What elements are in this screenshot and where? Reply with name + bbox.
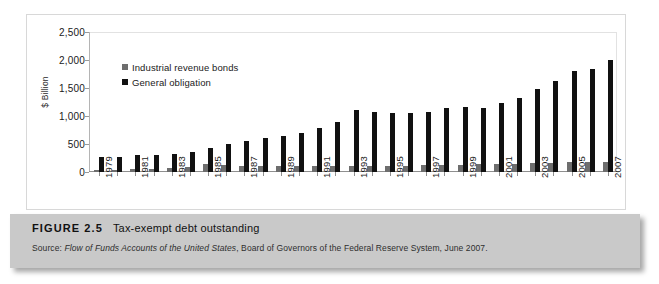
bar-general-obligation (117, 157, 122, 172)
x-axis-tick-label: 1987 (248, 156, 259, 178)
bar-group (167, 32, 177, 172)
x-axis-tick-mark (572, 172, 573, 176)
bar-general-obligation (335, 122, 340, 172)
y-axis-tick-label: 500 (41, 139, 85, 150)
x-axis-tick-mark (335, 172, 336, 176)
x-axis-tick-mark (190, 172, 191, 176)
x-axis-tick-mark (135, 172, 136, 176)
figure-caption: FIGURE 2.5Tax-exempt debt outstanding (32, 222, 260, 234)
bar-group (421, 32, 431, 172)
bar-group (403, 32, 413, 172)
bar-group (330, 32, 340, 172)
chart-panel: $ Billion 05001,0001,5002,0002,500 Indus… (26, 14, 626, 210)
bar-general-obligation (444, 108, 449, 172)
x-axis-tick-label: 1991 (321, 156, 332, 178)
source-rest: , Board of Governors of the Federal Rese… (236, 243, 487, 253)
x-axis-tick-mark (372, 172, 373, 176)
x-axis-tick-label: 1989 (285, 156, 296, 178)
x-axis-tick-mark (154, 172, 155, 176)
bar-general-obligation (372, 112, 377, 172)
bar-general-obligation (299, 133, 304, 172)
bar-general-obligation (517, 98, 522, 172)
bar-group (603, 32, 613, 172)
x-axis-tick-mark (244, 172, 245, 176)
bar-group (458, 32, 468, 172)
y-axis-tick-label: 2,000 (41, 55, 85, 66)
x-axis-tick-labels: 1979198119831985198719891991199319951997… (90, 178, 617, 218)
bar-general-obligation (408, 113, 413, 172)
x-axis-tick-mark (281, 172, 282, 176)
y-axis-tick-label: 1,000 (41, 111, 85, 122)
source-prefix: Source: (32, 243, 64, 253)
x-axis-tick-mark (481, 172, 482, 176)
bar-group (567, 32, 577, 172)
bar-series-container (90, 32, 617, 172)
y-axis-tick-mark (85, 172, 89, 173)
x-axis-tick-label: 1983 (176, 156, 187, 178)
bar-general-obligation (553, 81, 558, 172)
bar-group (130, 32, 140, 172)
bar-general-obligation (481, 108, 486, 172)
figure-container: $ Billion 05001,0001,5002,0002,500 Indus… (0, 0, 659, 284)
x-axis-tick-mark (317, 172, 318, 176)
bar-group (203, 32, 213, 172)
bar-group (112, 32, 122, 172)
bar-general-obligation (263, 138, 268, 172)
source-title: Flow of Funds Accounts of the United Sta… (64, 243, 236, 253)
bar-general-obligation (590, 69, 595, 172)
bar-group (585, 32, 595, 172)
bar-group (530, 32, 540, 172)
bar-group (512, 32, 522, 172)
bar-general-obligation (154, 155, 159, 172)
bar-group (367, 32, 377, 172)
bar-group (149, 32, 159, 172)
x-axis-tick-mark (517, 172, 518, 176)
x-axis-tick-mark (99, 172, 100, 176)
y-axis-tick-label: 1,500 (41, 83, 85, 94)
bar-group (385, 32, 395, 172)
y-axis-tick-label: 0 (41, 167, 85, 178)
x-axis-tick-mark (590, 172, 591, 176)
bar-general-obligation (190, 152, 195, 172)
x-axis-tick-mark (426, 172, 427, 176)
figure-caption-band: FIGURE 2.5Tax-exempt debt outstanding So… (10, 214, 640, 268)
x-axis-tick-label: 1981 (139, 156, 150, 178)
x-axis-tick-mark (117, 172, 118, 176)
figure-number: FIGURE 2.5 (32, 222, 103, 234)
x-axis-tick-mark (553, 172, 554, 176)
x-axis-tick-mark (208, 172, 209, 176)
bar-group (94, 32, 104, 172)
y-axis-tick-labels: 05001,0001,5002,0002,500 (41, 15, 85, 211)
x-axis-tick-label: 2007 (612, 156, 623, 178)
x-axis-tick-mark (354, 172, 355, 176)
figure-caption-text: Tax-exempt debt outstanding (113, 222, 260, 234)
x-axis-tick-mark (299, 172, 300, 176)
bar-group (239, 32, 249, 172)
x-axis-tick-mark (499, 172, 500, 176)
bar-group (494, 32, 504, 172)
x-axis-tick-label: 1993 (358, 156, 369, 178)
x-axis-tick-label: 1995 (394, 156, 405, 178)
x-axis-tick-label: 1979 (103, 156, 114, 178)
x-axis-tick-mark (172, 172, 173, 176)
figure-source: Source: Flow of Funds Accounts of the Un… (32, 243, 488, 253)
x-axis-tick-label: 2003 (539, 156, 550, 178)
x-axis-tick-mark (444, 172, 445, 176)
bar-group (258, 32, 268, 172)
x-axis-tick-label: 1997 (430, 156, 441, 178)
bar-general-obligation (226, 144, 231, 172)
x-axis-tick-mark (608, 172, 609, 176)
bar-group (349, 32, 359, 172)
x-axis-tick-label: 2001 (503, 156, 514, 178)
x-axis-tick-mark (226, 172, 227, 176)
x-axis-tick-mark (463, 172, 464, 176)
bar-group (548, 32, 558, 172)
y-axis-tick-label: 2,500 (41, 27, 85, 38)
bar-group (439, 32, 449, 172)
x-axis-tick-label: 2005 (576, 156, 587, 178)
x-axis-tick-mark (535, 172, 536, 176)
x-axis-tick-mark (263, 172, 264, 176)
bar-group (185, 32, 195, 172)
bar-group (476, 32, 486, 172)
x-axis-tick-label: 1999 (467, 156, 478, 178)
